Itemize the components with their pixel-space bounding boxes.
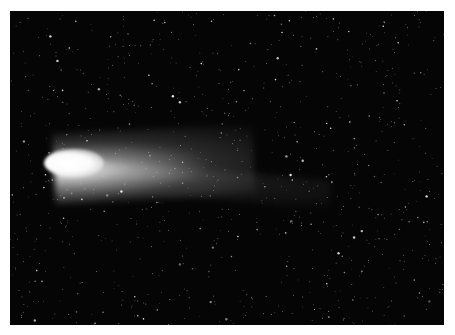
comet-photograph [10,11,444,325]
star-field [10,11,444,325]
